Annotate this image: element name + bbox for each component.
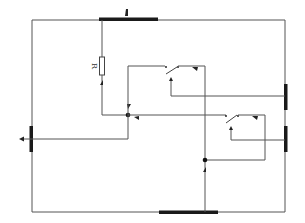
- lower-switch-contact-left: [225, 115, 227, 117]
- upper-feed-arrow-icon: [169, 77, 173, 81]
- bottom-bar: [159, 211, 218, 215]
- resistor-label: R: [90, 63, 99, 70]
- lower-junction: [203, 158, 208, 163]
- resistor: [100, 57, 105, 75]
- right-lower-bar: [284, 126, 288, 152]
- lower-feed-arrow-icon: [229, 126, 233, 130]
- circuit-diagram: R: [0, 0, 305, 223]
- upper-switch-contact-left: [165, 66, 167, 68]
- left-output-arrow-icon: [19, 137, 24, 142]
- lower-switch-blade: [226, 115, 237, 123]
- junction-arrow-right-icon: [134, 116, 139, 120]
- top-arrow-icon: [125, 9, 128, 16]
- outer-frame: [32, 20, 285, 212]
- lower-switch-arrow-icon: [252, 116, 258, 120]
- right-upper-bar: [284, 84, 288, 110]
- top-bar: [99, 18, 158, 22]
- upper-switch-arrow-icon: [192, 67, 198, 71]
- upper-switch-blade: [166, 67, 177, 74]
